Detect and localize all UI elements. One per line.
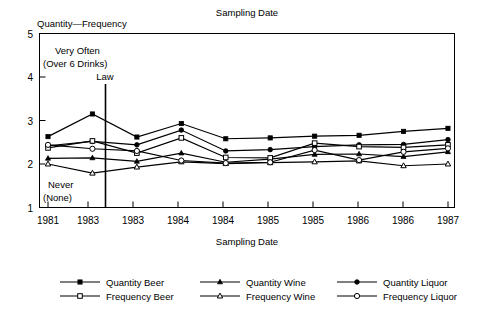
open-triangle-marker (45, 161, 50, 166)
y-tick-label-4: 4 (27, 72, 33, 83)
filled-square-marker (446, 126, 450, 130)
filled-circle-marker (268, 147, 273, 152)
series-line (48, 114, 448, 139)
filled-square-marker (357, 133, 361, 137)
x-tick-label-9: 1987 (437, 215, 460, 226)
x-tick-label-3: 1984 (167, 215, 190, 226)
filled-square-marker (224, 137, 228, 141)
filled-circle-marker (446, 137, 451, 142)
open-triangle-marker (445, 161, 450, 166)
annotation-very-often: Very Often (55, 45, 100, 56)
filled-square-marker (179, 121, 183, 125)
filled-square-marker (46, 134, 50, 138)
open-triangle-marker (401, 163, 406, 168)
open-square-marker (223, 155, 228, 160)
filled-square-marker (135, 135, 139, 139)
x-tick-label-7: 1986 (347, 215, 370, 226)
filled-triangle-marker (179, 150, 184, 155)
x-tick-label-1: 1983 (77, 215, 100, 226)
open-square-marker (179, 136, 184, 141)
filled-square-marker (90, 112, 94, 116)
open-circle-marker (223, 161, 228, 166)
filled-square-marker (313, 134, 317, 138)
open-square-marker (90, 139, 95, 144)
y-tick-label-5: 5 (27, 29, 33, 40)
annotation-over-6-drinks: (Over 6 Drinks) (43, 58, 107, 69)
open-circle-marker (45, 142, 50, 147)
open-circle-marker (401, 149, 406, 154)
filled-square-marker (401, 129, 405, 133)
x-tick-label-5: 1985 (257, 215, 280, 226)
series-frequency-beer (46, 136, 451, 161)
chart-title: Sampling Date (216, 7, 278, 18)
open-circle-marker (445, 146, 450, 151)
open-circle-marker (179, 158, 184, 163)
series-quantity-beer (46, 112, 450, 141)
x-tick-label-8: 1986 (392, 215, 415, 226)
open-triangle-marker (134, 164, 139, 169)
x-tick-label-4: 1984 (212, 215, 235, 226)
x-tick-label-6: 1985 (302, 215, 325, 226)
series-line (48, 152, 448, 162)
annotation-law-label: Law (96, 71, 114, 82)
annotation-none: (None) (43, 192, 72, 203)
open-square-marker (312, 141, 317, 146)
filled-circle-marker (223, 149, 228, 154)
annotation-never: Never (48, 179, 73, 190)
x-tick-label-0: 1981 (37, 215, 60, 226)
chart-figure: 5 4 3 2 1 Sampling Date Quantity—Frequen… (0, 0, 481, 312)
x-axis-ticks (48, 202, 448, 208)
filled-circle-marker (179, 128, 184, 133)
open-square-marker (357, 144, 362, 149)
open-circle-marker (312, 147, 317, 152)
y-tick-label-2: 2 (27, 159, 33, 170)
open-circle-marker (134, 148, 139, 153)
y-tick-label-1: 1 (27, 203, 33, 214)
open-triangle-marker (90, 170, 95, 175)
x-tick-label-2: 1983 (122, 215, 145, 226)
x-axis-label: Sampling Date (216, 236, 278, 247)
y-tick-label-3: 3 (27, 116, 33, 127)
open-circle-marker (90, 146, 95, 151)
open-circle-marker (268, 160, 273, 165)
filled-square-marker (268, 136, 272, 140)
line-chart: 5 4 3 2 1 Sampling Date Quantity—Frequen… (0, 0, 481, 312)
filled-circle-marker (135, 143, 140, 148)
open-circle-marker (356, 157, 361, 162)
open-triangle-marker (312, 159, 317, 164)
y-axis-label: Quantity—Frequency (37, 18, 127, 29)
